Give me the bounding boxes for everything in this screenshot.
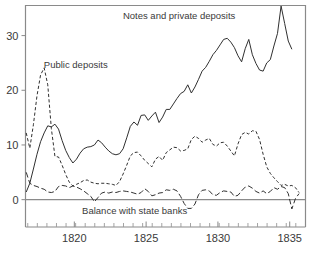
chart-container: 1820182518301835 0102030 Notes and priva… — [0, 0, 319, 254]
x-tick-label: 1820 — [62, 232, 86, 244]
frame-border — [26, 6, 306, 228]
series-line-public-deposits — [26, 68, 299, 193]
y-tick-label: 0 — [12, 194, 18, 206]
x-axis-tick-labels: 1820182518301835 — [62, 232, 302, 244]
plot-frame — [26, 6, 306, 228]
y-tick-label: 30 — [6, 30, 18, 42]
balance-with-state-banks-label: Balance with state banks — [82, 205, 187, 216]
y-axis-tick-labels: 0102030 — [6, 30, 18, 206]
x-tick-label: 1830 — [206, 232, 230, 244]
x-axis-tick-marks — [28, 222, 296, 228]
x-tick-label: 1835 — [277, 232, 301, 244]
x-tick-label: 1825 — [134, 232, 158, 244]
public-deposits-label: Public deposits — [44, 59, 108, 70]
y-tick-label: 20 — [6, 84, 18, 96]
notes-and-private-deposits-label: Notes and private deposits — [123, 10, 236, 21]
historical-bank-balances-line-chart: 1820182518301835 0102030 Notes and priva… — [0, 0, 319, 254]
y-tick-label: 10 — [6, 139, 18, 151]
series-lines — [26, 6, 299, 209]
series-line-notes-and-private-deposits — [26, 6, 292, 192]
